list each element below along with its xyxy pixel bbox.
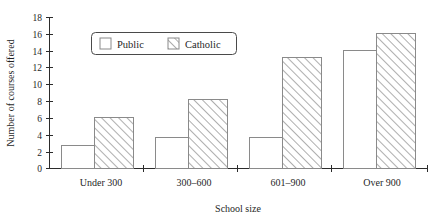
legend-label-public: Public <box>117 39 144 50</box>
bar-catholic-under-300 <box>94 117 133 168</box>
bar-public-under-300 <box>61 145 94 169</box>
x-axis-category-labels: Under 300 300–600 601–900 Over 900 <box>80 177 401 188</box>
legend-label-catholic: Catholic <box>185 39 221 50</box>
bar-chart: 18 16 14 12 10 8 6 4 2 0 <box>0 0 436 222</box>
bar-public-over-900 <box>343 50 376 168</box>
bar-group-300-600 <box>155 100 227 169</box>
x-label-under-300: Under 300 <box>80 177 123 188</box>
bar-catholic-601-900 <box>282 58 321 169</box>
y-tick-label-16: 16 <box>33 30 43 40</box>
bar-public-300-600 <box>155 137 188 168</box>
x-label-601-900: 601–900 <box>271 177 306 188</box>
y-tick-label-6: 6 <box>37 114 42 124</box>
y-axis-title: Number of courses offered <box>5 39 16 146</box>
y-tick-label-4: 4 <box>37 131 42 141</box>
legend-swatch-catholic-icon <box>168 38 179 49</box>
bar-catholic-over-900 <box>376 33 415 168</box>
y-tick-label-14: 14 <box>33 47 43 57</box>
legend-swatch-public-icon <box>100 38 111 49</box>
x-axis-title: School size <box>215 203 261 214</box>
x-label-over-900: Over 900 <box>363 177 401 188</box>
legend: Public Catholic <box>92 33 237 55</box>
y-tick-label-12: 12 <box>33 63 43 73</box>
bar-group-601-900 <box>249 58 321 169</box>
chart-canvas: 18 16 14 12 10 8 6 4 2 0 <box>0 0 436 222</box>
y-tick-label-2: 2 <box>37 148 42 158</box>
x-label-300-600: 300–600 <box>177 177 212 188</box>
y-tick-label-8: 8 <box>37 97 42 107</box>
bar-group-over-900 <box>343 33 415 168</box>
y-tick-label-0: 0 <box>37 164 42 174</box>
bar-public-601-900 <box>249 137 282 168</box>
bar-group-under-300 <box>61 117 133 168</box>
y-tick-label-18: 18 <box>33 13 43 23</box>
y-tick-label-10: 10 <box>33 80 43 90</box>
bar-catholic-300-600 <box>188 100 227 169</box>
